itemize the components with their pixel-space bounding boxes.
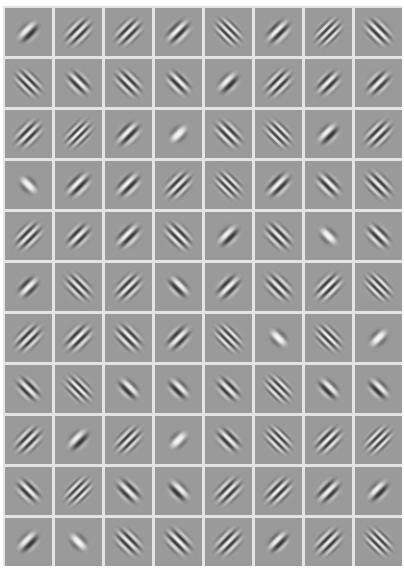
filter-patch: [255, 59, 302, 107]
gabor-filter-image: [305, 314, 352, 362]
filter-patch: [155, 110, 202, 158]
gabor-filter-image: [355, 212, 402, 260]
gabor-filter-image: [305, 59, 352, 107]
gabor-filter-image: [55, 110, 102, 158]
filter-patch: [305, 110, 352, 158]
filter-patch: [355, 110, 402, 158]
gabor-filter-image: [105, 8, 152, 56]
gabor-filter-image: [155, 314, 202, 362]
gabor-filter-image: [155, 110, 202, 158]
gabor-filter-image: [355, 59, 402, 107]
filter-patch: [55, 161, 102, 209]
gabor-filter-image: [105, 467, 152, 515]
gabor-filter-image: [205, 518, 252, 566]
gabor-filter-image: [105, 263, 152, 311]
filter-patch: [205, 59, 252, 107]
gabor-filter-image: [55, 314, 102, 362]
gabor-filter-image: [155, 59, 202, 107]
filter-patch: [355, 212, 402, 260]
filter-patch: [355, 161, 402, 209]
gabor-filter-image: [205, 8, 252, 56]
filter-patch: [305, 59, 352, 107]
filter-patch: [5, 365, 52, 413]
gabor-filter-image: [5, 212, 52, 260]
filter-patch: [205, 212, 252, 260]
gabor-filter-image: [355, 467, 402, 515]
filter-patch: [255, 467, 302, 515]
filter-patch: [205, 416, 252, 464]
filter-patch: [5, 212, 52, 260]
gabor-filter-image: [305, 518, 352, 566]
gabor-filter-image: [155, 161, 202, 209]
filter-grid: [3, 6, 402, 566]
gabor-filter-image: [255, 161, 302, 209]
filter-patch: [155, 314, 202, 362]
gabor-filter-image: [155, 8, 202, 56]
filter-patch: [255, 263, 302, 311]
filter-patch: [155, 8, 202, 56]
gabor-filter-image: [255, 263, 302, 311]
gabor-filter-image: [255, 212, 302, 260]
filter-patch: [105, 467, 152, 515]
filter-patch: [155, 365, 202, 413]
gabor-filter-image: [205, 161, 252, 209]
filter-patch: [105, 8, 152, 56]
gabor-filter-image: [155, 518, 202, 566]
gabor-filter-image: [355, 110, 402, 158]
filter-patch: [205, 110, 252, 158]
gabor-filter-image: [55, 8, 102, 56]
gabor-filter-image: [205, 314, 252, 362]
filter-patch: [5, 467, 52, 515]
gabor-filter-image: [105, 59, 152, 107]
filter-patch: [55, 467, 102, 515]
filter-patch: [205, 263, 252, 311]
gabor-filter-image: [205, 416, 252, 464]
gabor-filter-image: [255, 518, 302, 566]
filter-patch: [155, 212, 202, 260]
gabor-filter-image: [205, 365, 252, 413]
gabor-filter-image: [305, 263, 352, 311]
gabor-filter-image: [55, 263, 102, 311]
gabor-filter-image: [155, 212, 202, 260]
gabor-filter-image: [255, 59, 302, 107]
filter-patch: [355, 8, 402, 56]
gabor-filter-image: [105, 518, 152, 566]
filter-patch: [305, 161, 352, 209]
gabor-filter-image: [155, 263, 202, 311]
filter-patch: [255, 314, 302, 362]
filter-patch: [105, 518, 152, 566]
filter-patch: [155, 59, 202, 107]
filter-patch: [355, 59, 402, 107]
filter-patch: [255, 212, 302, 260]
filter-patch: [305, 212, 352, 260]
filter-patch: [205, 365, 252, 413]
filter-patch: [5, 518, 52, 566]
gabor-filter-image: [5, 263, 52, 311]
gabor-filter-image: [355, 161, 402, 209]
filter-patch: [5, 263, 52, 311]
filter-patch: [155, 467, 202, 515]
gabor-filter-image: [105, 314, 152, 362]
gabor-filter-image: [355, 365, 402, 413]
gabor-filter-image: [155, 365, 202, 413]
filter-patch: [355, 314, 402, 362]
filter-patch: [5, 416, 52, 464]
gabor-filter-image: [205, 59, 252, 107]
gabor-filter-image: [355, 416, 402, 464]
gabor-filter-image: [205, 467, 252, 515]
gabor-filter-image: [305, 212, 352, 260]
gabor-filter-image: [255, 110, 302, 158]
filter-patch: [305, 518, 352, 566]
gabor-filter-image: [105, 365, 152, 413]
gabor-filter-image: [305, 467, 352, 515]
gabor-filter-image: [105, 212, 152, 260]
filter-patch: [255, 365, 302, 413]
gabor-filter-image: [5, 8, 52, 56]
filter-patch: [305, 365, 352, 413]
filter-patch: [5, 59, 52, 107]
gabor-filter-image: [255, 314, 302, 362]
gabor-filter-image: [155, 416, 202, 464]
gabor-filter-image: [355, 314, 402, 362]
filter-patch: [55, 416, 102, 464]
filter-patch: [5, 161, 52, 209]
